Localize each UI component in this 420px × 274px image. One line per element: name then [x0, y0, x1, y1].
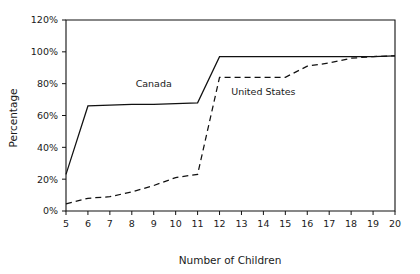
y-tick-label: 80% — [37, 78, 58, 89]
x-axis-title: Number of Children — [179, 254, 282, 266]
y-axis-ticks — [62, 20, 66, 211]
x-tick-label: 15 — [279, 218, 291, 229]
series-label-united-states: United States — [231, 86, 295, 97]
line-chart: 0%20%40%60%80%100%120% 56789101112131415… — [0, 0, 420, 274]
y-tick-label: 0% — [43, 205, 58, 216]
x-tick-label: 13 — [235, 218, 247, 229]
y-tick-label: 100% — [31, 46, 58, 57]
x-tick-label: 7 — [107, 218, 113, 229]
series-annotations: CanadaUnited States — [136, 78, 296, 97]
y-tick-label: 40% — [37, 142, 58, 153]
x-tick-label: 14 — [257, 218, 269, 229]
x-tick-label: 16 — [301, 218, 313, 229]
x-tick-label: 12 — [213, 218, 225, 229]
plot-frame — [66, 20, 395, 211]
y-tick-label: 60% — [37, 110, 58, 121]
x-tick-label: 8 — [129, 218, 135, 229]
x-tick-label: 9 — [151, 218, 157, 229]
x-tick-label: 11 — [192, 218, 204, 229]
x-tick-label: 6 — [85, 218, 91, 229]
x-tick-label: 20 — [389, 218, 401, 229]
x-axis-ticks — [66, 211, 395, 215]
y-axis-title: Percentage — [7, 88, 19, 147]
series-label-canada: Canada — [136, 78, 172, 89]
x-axis-tick-labels: 567891011121314151617181920 — [63, 218, 401, 229]
x-tick-label: 17 — [323, 218, 335, 229]
x-tick-label: 10 — [170, 218, 182, 229]
y-axis-tick-labels: 0%20%40%60%80%100%120% — [31, 14, 58, 216]
series-line-canada — [66, 56, 395, 175]
data-series-group — [66, 56, 395, 204]
chart-container: 0%20%40%60%80%100%120% 56789101112131415… — [0, 0, 420, 274]
x-tick-label: 5 — [63, 218, 69, 229]
x-tick-label: 18 — [345, 218, 357, 229]
x-tick-label: 19 — [367, 218, 379, 229]
y-tick-label: 20% — [37, 174, 58, 185]
series-line-united-states — [66, 56, 395, 204]
y-tick-label: 120% — [31, 14, 58, 25]
